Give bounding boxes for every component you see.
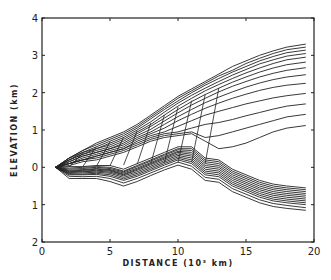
lower-profile-line	[56, 165, 306, 210]
y-axis-label: ELEVATION (km)	[10, 83, 19, 177]
y-tick-label: 2	[32, 88, 38, 99]
x-tick-label: 15	[240, 246, 253, 257]
time-slice-line	[205, 88, 219, 163]
x-tick-label: 10	[172, 246, 185, 257]
y-tick-label: 3	[32, 50, 38, 61]
elevation-distance-chart: 051015202101234 DISTANCE (10³ km) ELEVAT…	[0, 0, 331, 280]
x-axis-label: DISTANCE (10³ km)	[122, 259, 233, 268]
y-tick-label: 1	[32, 125, 38, 136]
plot-lines	[56, 44, 306, 210]
y-tick-label: 1	[32, 200, 38, 211]
plot-axes	[42, 18, 314, 242]
x-tick-label: 0	[39, 246, 45, 257]
y-tick-label: 0	[32, 162, 38, 173]
x-tick-label: 20	[308, 246, 321, 257]
y-tick-label: 2	[32, 237, 38, 248]
y-tick-label: 4	[32, 13, 38, 24]
plot-frame	[42, 18, 314, 242]
x-tick-label: 5	[107, 246, 113, 257]
